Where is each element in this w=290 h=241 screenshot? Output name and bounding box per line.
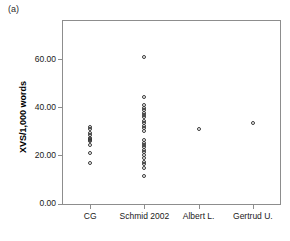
datapoint — [142, 166, 146, 170]
figure-root: (a) XVS/1,000 words 0.0020.0040.0060.00C… — [0, 0, 290, 241]
y-tick-label: 0.00 — [39, 199, 56, 208]
x-tick-label-albert-l: Albert L. — [183, 211, 215, 221]
x-tick-mark — [144, 205, 145, 209]
y-axis-title: XVS/1,000 words — [18, 47, 28, 187]
datapoint — [142, 95, 146, 99]
panel-letter: (a) — [8, 4, 19, 15]
datapoint — [197, 127, 201, 131]
x-tick-mark — [90, 205, 91, 209]
y-tick-label: 40.00 — [35, 103, 56, 112]
datapoint — [142, 55, 146, 59]
y-tick-mark — [58, 59, 62, 60]
datapoint — [88, 143, 92, 147]
y-tick-mark — [58, 107, 62, 108]
datapoint — [88, 151, 92, 155]
x-tick-mark — [253, 205, 254, 209]
datapoint — [88, 161, 92, 165]
y-tick-mark — [58, 155, 62, 156]
x-tick-label-cg: CG — [84, 211, 97, 221]
y-tick-label: 20.00 — [35, 151, 56, 160]
x-tick-label-gertrud-u: Gertrud U. — [233, 211, 273, 221]
datapoint — [251, 121, 255, 125]
y-tick-label: 60.00 — [35, 55, 56, 64]
datapoint — [142, 174, 146, 178]
datapoint — [142, 129, 146, 133]
plot-area — [63, 21, 280, 204]
x-tick-label-schmid-2002: Schmid 2002 — [120, 211, 170, 221]
x-tick-mark — [199, 205, 200, 209]
y-tick-mark — [58, 204, 62, 205]
